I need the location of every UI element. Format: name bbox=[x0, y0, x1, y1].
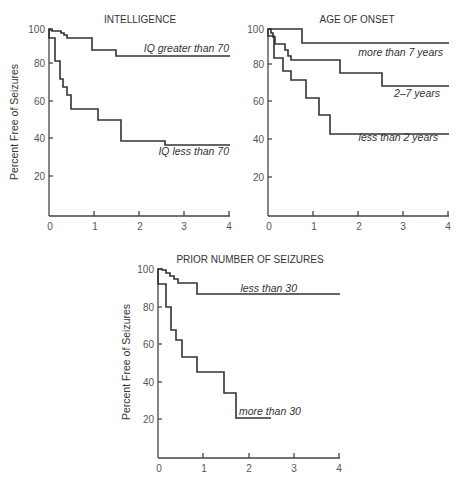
chart-title: AGE OF ONSET bbox=[319, 14, 394, 25]
svg-text:60: 60 bbox=[34, 96, 46, 107]
svg-text:0: 0 bbox=[156, 463, 162, 474]
svg-text:80: 80 bbox=[143, 302, 155, 313]
svg-text:3: 3 bbox=[400, 221, 406, 232]
series-label-less-than-2: less than 2 years bbox=[359, 131, 439, 143]
series-label-more-than-30: more than 30 bbox=[239, 405, 301, 417]
svg-text:100: 100 bbox=[28, 24, 45, 35]
series-label-more-than-7: more than 7 years bbox=[358, 46, 443, 58]
svg-text:60: 60 bbox=[253, 96, 265, 107]
svg-text:2: 2 bbox=[246, 463, 252, 474]
svg-text:80: 80 bbox=[34, 58, 46, 69]
svg-text:60: 60 bbox=[143, 339, 155, 350]
x-ticks: 0 1 2 3 4 bbox=[47, 211, 232, 232]
svg-text:1: 1 bbox=[311, 221, 317, 232]
svg-text:4: 4 bbox=[226, 221, 232, 232]
chart-prior-seizures: PRIOR NUMBER OF SEIZURES Percent Free of… bbox=[120, 254, 342, 474]
svg-text:20: 20 bbox=[253, 172, 265, 183]
svg-text:40: 40 bbox=[253, 134, 265, 145]
svg-text:2: 2 bbox=[356, 221, 362, 232]
svg-text:0: 0 bbox=[266, 221, 272, 232]
curve-less-than-2-years bbox=[268, 29, 449, 134]
svg-text:1: 1 bbox=[201, 463, 207, 474]
chart-title: PRIOR NUMBER OF SEIZURES bbox=[176, 254, 324, 265]
chart-intelligence: INTELLIGENCE Percent Free of Seizures 10… bbox=[8, 14, 232, 232]
chart-title: INTELLIGENCE bbox=[104, 14, 177, 25]
svg-text:0: 0 bbox=[47, 221, 53, 232]
chart-age-of-onset: AGE OF ONSET 100 80 60 40 20 0 1 2 3 4 bbox=[247, 14, 451, 232]
svg-text:40: 40 bbox=[143, 377, 155, 388]
y-axis-label: Percent Free of Seizures bbox=[8, 64, 20, 180]
figure-canvas: INTELLIGENCE Percent Free of Seizures 10… bbox=[0, 0, 461, 486]
svg-text:20: 20 bbox=[34, 171, 46, 182]
svg-text:100: 100 bbox=[137, 264, 154, 275]
svg-text:3: 3 bbox=[291, 463, 297, 474]
svg-text:4: 4 bbox=[445, 221, 451, 232]
x-ticks: 0 1 2 3 4 bbox=[266, 211, 451, 232]
svg-text:100: 100 bbox=[247, 24, 264, 35]
y-axis-label: Percent Free of Seizures bbox=[120, 304, 132, 420]
series-label-iq-greater: IQ greater than 70 bbox=[144, 42, 229, 54]
svg-text:4: 4 bbox=[336, 463, 342, 474]
svg-text:80: 80 bbox=[253, 59, 265, 70]
svg-text:2: 2 bbox=[137, 221, 143, 232]
x-ticks: 0 1 2 3 4 bbox=[156, 453, 342, 474]
series-label-less-than-30: less than 30 bbox=[240, 282, 297, 294]
curve-more-than-7-years bbox=[268, 29, 449, 43]
svg-text:20: 20 bbox=[143, 414, 155, 425]
series-label-2-7: 2–7 years bbox=[393, 87, 441, 99]
svg-text:40: 40 bbox=[34, 133, 46, 144]
svg-text:3: 3 bbox=[181, 221, 187, 232]
series-label-iq-less: IQ less than 70 bbox=[158, 145, 229, 157]
svg-text:1: 1 bbox=[92, 221, 98, 232]
